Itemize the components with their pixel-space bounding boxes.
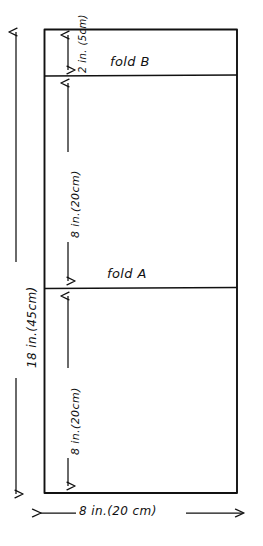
fold-b-line [45,75,238,76]
fold-a-label: fold A [107,267,147,280]
overall-height-dimension-label: 18 in.(45cm) [26,286,38,368]
top-flap-dimension-label: 2 in. (5cm) [78,14,88,73]
overall-width-dimension-label: 8 in.(20 cm) [76,505,160,517]
bottom-panel-dimension-label: 8 in.(20cm) [70,387,81,455]
fold-a-line [45,288,238,289]
fold-b-label: fold B [110,55,150,68]
middle-panel-dimension-label: 8 in.(20cm) [70,170,81,238]
